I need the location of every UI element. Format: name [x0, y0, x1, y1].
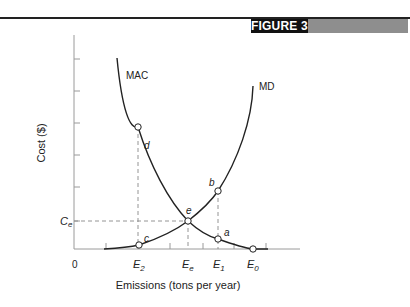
y-axis — [74, 35, 80, 249]
point-d-label: d — [144, 140, 150, 151]
e1-label: E1 — [213, 258, 225, 273]
chart: MAC MD d c e b a Ce 0 E2 Ee E1 E0 Emissi… — [0, 0, 410, 307]
ce-label: Ce — [60, 215, 73, 229]
mac-curve — [117, 58, 268, 249]
ee-label: Ee — [182, 258, 194, 273]
mac-label: MAC — [126, 70, 148, 81]
e2-label: E2 — [133, 258, 145, 273]
point-b — [215, 188, 221, 194]
point-a — [215, 236, 221, 242]
e0-label: E0 — [247, 258, 259, 273]
point-a-label: a — [224, 227, 230, 238]
point-e — [185, 218, 191, 224]
point-d — [135, 124, 141, 130]
point-c — [136, 242, 142, 248]
md-curve — [104, 86, 253, 249]
x-axis-title: Emissions (tons per year) — [116, 279, 241, 291]
point-b-label: b — [209, 177, 215, 188]
point-c-label: c — [144, 233, 149, 244]
y-axis-title: Cost ($) — [35, 123, 47, 162]
origin-label: 0 — [72, 259, 78, 270]
md-label: MD — [259, 81, 275, 92]
point-e-label: e — [186, 205, 192, 216]
point-e0 — [250, 246, 256, 252]
data-points — [135, 124, 256, 252]
